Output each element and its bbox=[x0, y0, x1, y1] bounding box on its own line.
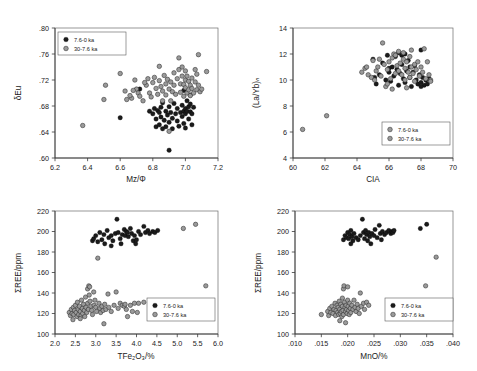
data-point bbox=[138, 232, 142, 236]
data-point bbox=[167, 120, 172, 125]
figure-panel-grid: 6.26.46.66.87.07.2 .80.76.72.68.64.60 Mz… bbox=[0, 0, 477, 371]
panel-a-x-axis-ticks: 6.26.46.66.87.07.2 bbox=[50, 158, 223, 172]
data-point bbox=[172, 71, 177, 76]
panel-a-x-axis-title: Mz/Φ bbox=[126, 175, 146, 184]
data-point bbox=[177, 56, 182, 61]
x-tick-label: .025 bbox=[367, 339, 381, 348]
data-point bbox=[168, 110, 173, 115]
panel-d-legend-label-old: 30-7.6 ka bbox=[401, 312, 425, 318]
data-point bbox=[90, 312, 94, 316]
panel-d-x-axis-title: MnO/% bbox=[360, 352, 387, 361]
data-point bbox=[170, 116, 175, 121]
data-point bbox=[162, 118, 167, 123]
y-tick-label: 10 bbox=[279, 76, 287, 85]
panel-c-legend-marker-young bbox=[153, 303, 158, 308]
panel-b-x-axis-ticks: 606264666870 bbox=[289, 158, 457, 172]
x-tick-label: 6.0 bbox=[213, 339, 223, 348]
data-point bbox=[149, 95, 154, 100]
data-point bbox=[371, 58, 376, 63]
data-point bbox=[360, 70, 365, 75]
data-point bbox=[379, 238, 383, 242]
panel-d-x-axis-ticks: .010.015.020.025.030.035.040 bbox=[288, 334, 460, 348]
panel-a-legend-label-old: 30-7.6 ka bbox=[74, 46, 98, 52]
panel-b-y-axis-title: (La/Yb)ₙ bbox=[252, 78, 261, 108]
data-point bbox=[167, 104, 172, 109]
panel-b-legend-label-young: 7.6-0 ka bbox=[398, 127, 419, 133]
data-point bbox=[87, 285, 91, 289]
data-point bbox=[408, 54, 413, 59]
data-point bbox=[380, 41, 385, 46]
x-tick-label: .030 bbox=[393, 339, 407, 348]
data-point bbox=[175, 76, 180, 81]
panel-b-legend-marker-old bbox=[388, 136, 393, 141]
data-point bbox=[373, 227, 377, 231]
y-tick-label: 180 bbox=[277, 248, 289, 257]
data-point bbox=[409, 48, 414, 53]
data-point bbox=[118, 236, 122, 240]
panel-a-legend-marker-old bbox=[64, 46, 69, 51]
y-tick-label: 160 bbox=[277, 268, 289, 277]
data-point bbox=[183, 126, 188, 131]
x-tick-label: 3.5 bbox=[111, 339, 121, 348]
data-point bbox=[345, 285, 349, 289]
data-point bbox=[424, 222, 428, 226]
data-point bbox=[375, 235, 379, 239]
data-point bbox=[185, 74, 190, 79]
x-tick-label: .015 bbox=[314, 339, 328, 348]
data-point bbox=[355, 302, 359, 306]
data-point bbox=[116, 230, 120, 234]
data-point bbox=[116, 306, 120, 310]
data-point bbox=[124, 97, 129, 102]
data-point bbox=[423, 284, 427, 288]
data-point bbox=[403, 66, 408, 71]
x-tick-label: 4.5 bbox=[152, 339, 162, 348]
y-tick-label: 14 bbox=[279, 24, 287, 33]
x-tick-label: 2.5 bbox=[70, 339, 80, 348]
data-point bbox=[157, 64, 162, 69]
data-point bbox=[193, 67, 198, 72]
data-point bbox=[401, 50, 406, 55]
data-point bbox=[352, 231, 356, 235]
data-point bbox=[152, 75, 157, 80]
data-point bbox=[96, 256, 100, 260]
data-point bbox=[151, 80, 156, 85]
data-point bbox=[412, 79, 417, 84]
data-point bbox=[128, 303, 132, 307]
x-tick-label: 5.5 bbox=[193, 339, 203, 348]
data-point bbox=[128, 226, 132, 230]
panel-b-x-axis-title: CIA bbox=[366, 175, 380, 184]
panel-b-legend-marker-young bbox=[388, 127, 393, 132]
data-point bbox=[112, 303, 116, 307]
data-point bbox=[157, 123, 162, 128]
data-point bbox=[180, 74, 185, 79]
data-point bbox=[173, 112, 178, 117]
panel-a-legend-label-young: 7.6-0 ka bbox=[74, 37, 95, 43]
panel-c-y-axis-ticks: 220200180160140120100 bbox=[37, 207, 55, 339]
data-point bbox=[103, 302, 107, 306]
data-point bbox=[199, 87, 204, 92]
data-point bbox=[151, 112, 156, 117]
data-point bbox=[177, 124, 182, 128]
panel-d-legend-marker-young bbox=[391, 303, 396, 308]
y-tick-label: 100 bbox=[277, 330, 289, 339]
panel-c-x-axis-title: TFe₂O₃/% bbox=[118, 352, 155, 361]
data-point bbox=[300, 127, 305, 132]
data-point bbox=[168, 99, 173, 104]
data-point bbox=[172, 83, 177, 88]
panel-d-y-axis-title: ΣREE/ppm bbox=[254, 253, 263, 293]
data-point bbox=[102, 97, 107, 102]
data-point bbox=[175, 106, 180, 111]
x-tick-label: 66 bbox=[385, 163, 393, 172]
data-point bbox=[385, 67, 390, 72]
data-point bbox=[190, 112, 195, 117]
data-point bbox=[173, 92, 178, 97]
data-point bbox=[379, 74, 384, 79]
y-tick-label: 120 bbox=[277, 309, 289, 318]
data-point bbox=[204, 284, 208, 288]
data-point bbox=[131, 88, 136, 93]
panel-d-legend: 7.6-0 ka 30-7.6 ka bbox=[385, 298, 453, 321]
data-point bbox=[114, 290, 118, 294]
panel-d-svg: .010.015.020.025.030.035.040 22020018016… bbox=[240, 185, 477, 371]
data-point bbox=[180, 65, 185, 70]
data-point bbox=[154, 117, 159, 122]
